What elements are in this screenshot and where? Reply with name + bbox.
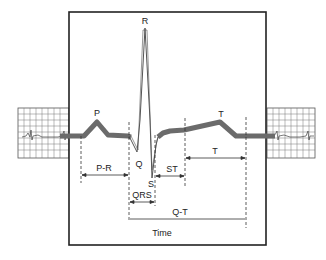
right-ecg-grid-strip [267,108,315,158]
ecg-diagram: P R Q S T P-R QRS ST T Q-T Time [0,0,326,260]
label-p-wave: P [94,108,100,118]
label-q-wave: Q [135,159,142,169]
label-s-wave: S [148,179,154,189]
label-st-interval: ST [166,164,178,174]
label-pr-interval: P-R [96,163,112,173]
label-qrs-interval: QRS [132,190,152,200]
label-r-wave: R [142,16,149,26]
label-t-interval: T [212,146,218,156]
main-frame [69,12,266,245]
label-qt-interval: Q-T [172,207,188,217]
label-t-wave: T [218,109,224,119]
label-time-axis: Time [152,228,172,238]
left-ecg-grid-strip [18,108,69,158]
